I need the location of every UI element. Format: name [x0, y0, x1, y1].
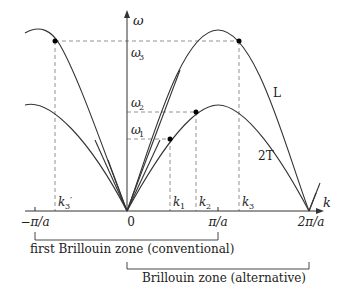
dispersion-diagram: ω k ω 3 ω 2 ω 1 k 3 ′ k 1 k 2 k 3 −π/a 0…: [0, 0, 355, 296]
tick-label-zero: 0: [127, 215, 135, 229]
point-k3prime: [53, 39, 58, 44]
omega2-label: ω 2: [131, 96, 144, 112]
curve-L-right: [127, 30, 309, 211]
linear-L-left: [95, 140, 127, 211]
svg-text:2: 2: [139, 103, 144, 112]
k1-label: k 1: [173, 195, 185, 211]
omega1-label: ω 1: [131, 123, 144, 139]
omega-axis-label: ω: [133, 13, 144, 28]
omega3-label: ω 3: [131, 46, 144, 62]
bracket-conventional: [35, 232, 218, 240]
zone-label-conventional: first Brillouin zone (conventional): [30, 242, 234, 256]
k3prime-label: k 3 ′: [58, 195, 73, 211]
curve-2T-left: [25, 104, 127, 211]
svg-text:2: 2: [206, 202, 211, 211]
linear-T-right: [127, 140, 160, 211]
axes: [25, 16, 318, 211]
svg-text:3: 3: [139, 53, 144, 62]
dispersion-curves: [25, 29, 320, 211]
zone-label-alternative: Brillouin zone (alternative): [142, 271, 306, 285]
linear-T-left: [108, 160, 127, 211]
point-k3: [237, 39, 242, 44]
tick-label-neg-pi: −π/a: [20, 215, 49, 229]
svg-text:′: ′: [70, 195, 73, 206]
point-k1: [168, 137, 173, 142]
curve-2T-right: [127, 105, 309, 211]
omega-axis-arrow-icon: [124, 10, 130, 18]
bracket-alternative: [127, 262, 309, 269]
svg-text:3: 3: [249, 202, 254, 211]
linear-T-2pi: [309, 193, 316, 211]
k-axis-label: k: [323, 195, 331, 210]
k3-label: k 3: [242, 195, 254, 211]
svg-text:1: 1: [180, 202, 185, 211]
k2-label: k 2: [199, 195, 211, 211]
guide-lines: [55, 41, 239, 211]
tick-label-2pi: 2π/a: [297, 215, 325, 229]
branch-label-L: L: [273, 86, 281, 100]
branch-label-2T: 2T: [258, 149, 274, 163]
svg-text:1: 1: [139, 130, 144, 139]
tick-label-pi: π/a: [207, 215, 227, 229]
point-k2: [194, 110, 199, 115]
